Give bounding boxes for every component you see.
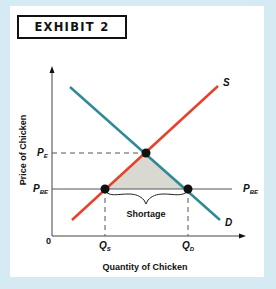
qd-point (184, 185, 193, 194)
origin-label: 0 (46, 236, 51, 246)
qs-point (101, 185, 110, 194)
x-axis-arrow-icon (239, 234, 246, 239)
demand-label: D (225, 217, 232, 228)
shortage-brace (105, 191, 188, 204)
x-axis-title: Quantity of Chicken (102, 262, 187, 272)
qs-label: QS (99, 240, 111, 252)
shortage-area (105, 153, 188, 189)
pbe-left-label: PBE (33, 183, 49, 195)
shortage-label: Shortage (126, 209, 165, 219)
supply-demand-chart: S D PE PBE PBE QS QD 0 Shortage Quantity… (0, 0, 276, 289)
qd-label: QD (182, 240, 195, 252)
pe-label: PE (37, 147, 49, 159)
equilibrium-point (142, 149, 151, 158)
pbe-right-label: PBE (243, 183, 259, 195)
y-axis-arrow-icon (50, 66, 55, 73)
supply-label: S (223, 77, 230, 88)
y-axis-title: Price of Chicken (18, 115, 28, 186)
